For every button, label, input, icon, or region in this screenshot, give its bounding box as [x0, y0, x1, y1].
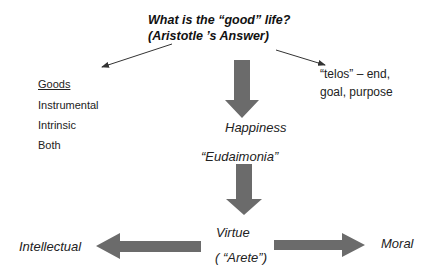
- goods-item-both: Both: [38, 139, 61, 151]
- goods-item-instrumental: Instrumental: [38, 99, 99, 111]
- down-arrow-virtue: [226, 164, 262, 215]
- right-arrow-moral: [274, 233, 365, 257]
- happiness-label: Happiness: [225, 120, 286, 135]
- title-line-2: (Aristotle ’s Answer): [148, 28, 290, 44]
- arete-label: ( “Arete”): [215, 250, 267, 265]
- eudaimonia-label: “Eudaimonia”: [201, 149, 278, 164]
- goods-item-intrinsic: Intrinsic: [38, 119, 76, 131]
- goods-heading: Goods: [38, 78, 70, 90]
- telos-definition: “telos” – end, goal, purpose: [320, 65, 393, 101]
- title-line-1: What is the “good” life?: [148, 12, 290, 28]
- arrow-to-telos: [276, 50, 325, 65]
- left-arrow-intellectual: [96, 233, 201, 259]
- telos-line-1: “telos” – end,: [320, 65, 393, 83]
- arrow-to-goods: [102, 44, 172, 67]
- intellectual-label: Intellectual: [19, 239, 81, 254]
- telos-line-2: goal, purpose: [320, 83, 393, 101]
- diagram-title: What is the “good” life? (Aristotle ’s A…: [148, 12, 290, 44]
- down-arrow-happiness: [225, 60, 259, 118]
- virtue-label: Virtue: [216, 225, 250, 240]
- moral-label: Moral: [381, 236, 414, 251]
